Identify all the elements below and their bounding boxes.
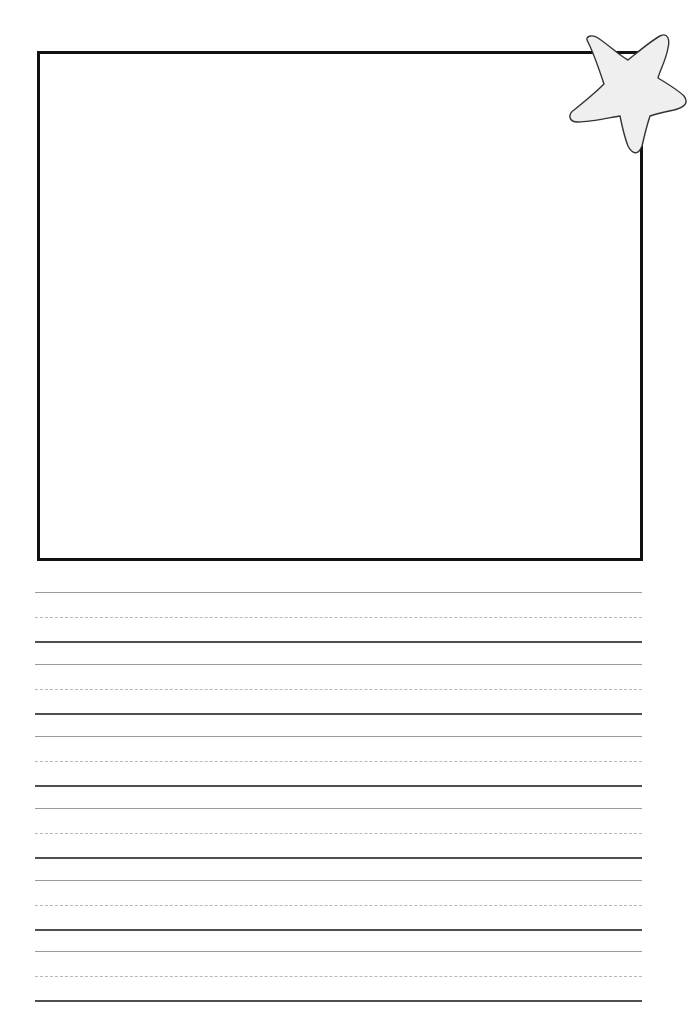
dashed-midline <box>35 905 642 906</box>
writing-lines-area <box>35 0 642 1032</box>
dashed-midline <box>35 689 642 690</box>
writing-line-set-2[interactable] <box>35 664 642 716</box>
dashed-midline <box>35 976 642 977</box>
baseline <box>35 857 642 859</box>
baseline <box>35 929 642 931</box>
baseline <box>35 1000 642 1002</box>
writing-line-set-6[interactable] <box>35 951 642 1003</box>
top-line <box>35 736 642 737</box>
baseline <box>35 641 642 643</box>
top-line <box>35 880 642 881</box>
baseline <box>35 713 642 715</box>
writing-line-set-3[interactable] <box>35 736 642 788</box>
top-line <box>35 808 642 809</box>
top-line <box>35 592 642 593</box>
dashed-midline <box>35 617 642 618</box>
dashed-midline <box>35 761 642 762</box>
writing-line-set-4[interactable] <box>35 808 642 860</box>
writing-line-set-5[interactable] <box>35 880 642 932</box>
writing-line-set-1[interactable] <box>35 592 642 644</box>
top-line <box>35 951 642 952</box>
top-line <box>35 664 642 665</box>
baseline <box>35 785 642 787</box>
dashed-midline <box>35 833 642 834</box>
